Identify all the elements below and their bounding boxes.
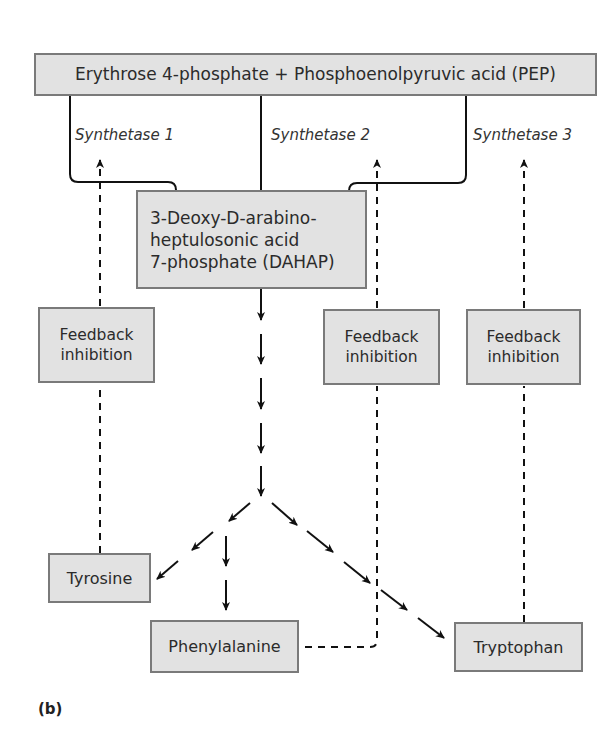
phenylalanine-box: Phenylalanine xyxy=(150,620,299,673)
substrates-box: Erythrose 4-phosphate + Phosphoenolpyruv… xyxy=(34,53,597,96)
synthetase-3-label: Synthetase 3 xyxy=(473,126,572,144)
feedback-1-line2: inhibition xyxy=(60,345,132,365)
feedback-2-line1: Feedback xyxy=(345,327,419,347)
dahap-line-3: 7-phosphate (DAHAP) xyxy=(150,251,335,273)
tryptophan-box: Tryptophan xyxy=(454,622,583,672)
panel-label: (b) xyxy=(38,700,62,718)
dahap-box: 3-Deoxy-D-arabino- heptulosonic acid 7-p… xyxy=(136,190,367,289)
feedback-inhibition-box-2: Feedback inhibition xyxy=(323,309,440,385)
tyrosine-box: Tyrosine xyxy=(48,553,151,603)
tryptophan-label: Tryptophan xyxy=(474,638,564,657)
synthetase-1-label: Synthetase 1 xyxy=(75,126,174,144)
substrates-label: Erythrose 4-phosphate + Phosphoenolpyruv… xyxy=(75,65,556,84)
feedback-3-line2: inhibition xyxy=(487,347,559,367)
phenylalanine-label: Phenylalanine xyxy=(168,637,280,656)
feedback-3-line1: Feedback xyxy=(487,327,561,347)
feedback-1-line1: Feedback xyxy=(60,325,134,345)
tyrosine-label: Tyrosine xyxy=(67,569,133,588)
feedback-inhibition-box-1: Feedback inhibition xyxy=(38,307,155,383)
dahap-line-1: 3-Deoxy-D-arabino- xyxy=(150,207,317,229)
feedback-2-line2: inhibition xyxy=(345,347,417,367)
dahap-line-2: heptulosonic acid xyxy=(150,229,299,251)
feedback-inhibition-box-3: Feedback inhibition xyxy=(466,309,581,385)
synthetase-2-label: Synthetase 2 xyxy=(271,126,370,144)
